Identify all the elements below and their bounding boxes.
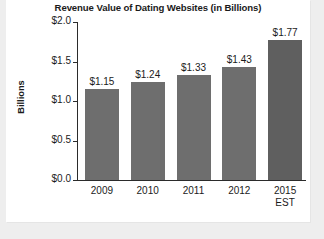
plot-area: $0.0$0.5$1.0$1.5$2.0 $1.15$1.24$1.33$1.4… (77, 22, 306, 181)
y-tick-label: $0.0 (52, 173, 71, 184)
y-axis-line (77, 22, 78, 181)
bar: $1.15 (85, 89, 119, 180)
x-axis-label: 2010 (125, 185, 171, 197)
y-tick-mark (73, 22, 77, 23)
y-tick-mark (73, 180, 77, 181)
bar-value-label: $1.24 (135, 69, 160, 80)
y-tick-label: $1.0 (52, 94, 71, 105)
bar-value-label: $1.77 (273, 27, 298, 38)
chart-title: Revenue Value of Dating Websites (in Bil… (6, 2, 310, 13)
x-axis-label: 2011 (171, 185, 217, 197)
y-tick-mark (73, 141, 77, 142)
y-tick-label: $2.0 (52, 15, 71, 26)
x-axis-label: 2015 EST (262, 185, 308, 208)
x-axis-line (77, 180, 306, 181)
bar-value-label: $1.33 (181, 62, 206, 73)
bar-value-label: $1.43 (227, 54, 252, 65)
x-axis-label: 2009 (79, 185, 125, 197)
x-axis-label: 2012 (216, 185, 262, 197)
bar: $1.43 (222, 67, 256, 180)
bar: $1.33 (177, 75, 211, 180)
chart-screenshot: Revenue Value of Dating Websites (in Bil… (0, 0, 324, 239)
bar: $1.77 (268, 40, 302, 180)
y-tick-mark (73, 101, 77, 102)
chart-card: Revenue Value of Dating Websites (in Bil… (6, 0, 310, 222)
y-tick-mark (73, 62, 77, 63)
bar: $1.24 (131, 82, 165, 180)
y-tick-label: $1.5 (52, 55, 71, 66)
y-axis-title: Billions (16, 74, 26, 120)
y-tick-label: $0.5 (52, 134, 71, 145)
bar-value-label: $1.15 (89, 76, 114, 87)
